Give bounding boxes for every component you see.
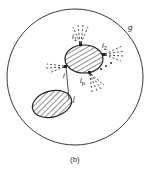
rays-ip: [90, 74, 104, 92]
label-g: g: [128, 23, 133, 32]
port-i1-marker: [79, 43, 82, 46]
label-i1: i1: [72, 32, 78, 42]
label-i: i: [63, 71, 65, 80]
ellipsis-dot-1: [100, 68, 102, 70]
port-i2-marker: [102, 53, 105, 56]
ellipsis-dot-2: [105, 65, 107, 67]
caption: (b): [70, 155, 80, 164]
outer-circle-g: [7, 9, 143, 145]
rays-i2: [105, 46, 124, 61]
upper-node: [65, 45, 103, 73]
port-ip-marker: [88, 71, 91, 74]
port-i-marker: [64, 65, 67, 68]
ellipsis-dot-3: [110, 62, 112, 64]
rays-i: [46, 64, 64, 73]
label-j: j: [72, 94, 75, 103]
lower-node-j: [29, 86, 74, 121]
label-ip: ip: [80, 76, 86, 86]
diagram-canvas: g i1 i2 i ip j (b): [0, 0, 150, 172]
label-i2: i2: [102, 41, 108, 51]
